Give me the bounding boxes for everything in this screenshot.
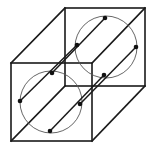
back-point-top bbox=[103, 16, 108, 21]
cube-circles-diagram bbox=[0, 0, 157, 151]
front-circle bbox=[20, 71, 82, 133]
front-point-left bbox=[18, 99, 23, 104]
front-point-right bbox=[78, 102, 83, 107]
connecting-edges bbox=[11, 8, 145, 141]
back-point-left bbox=[75, 43, 80, 48]
back-circle bbox=[75, 16, 137, 78]
front-point-top bbox=[50, 71, 55, 76]
edge-top-left bbox=[11, 8, 65, 63]
diagonal-line-bottom bbox=[50, 75, 104, 131]
diagonal-line-left bbox=[20, 45, 77, 101]
front-point-bottom bbox=[48, 129, 53, 134]
diagonal-line-right bbox=[80, 47, 136, 104]
edge-bottom-right bbox=[92, 86, 145, 141]
back-point-bottom bbox=[102, 73, 107, 78]
back-point-right bbox=[134, 45, 139, 50]
